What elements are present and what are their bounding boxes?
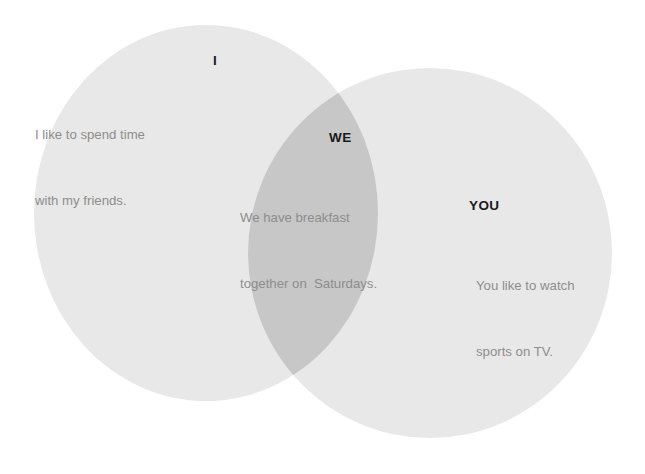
intersection-title-block: WE [329,131,352,145]
right-set-description-line-2: sports on TV. [476,341,574,363]
intersection-description: We have breakfast together on Saturdays. [240,163,377,339]
right-set-title: YOU [469,199,499,213]
venn-diagram: I I like to spend time with my friends. … [0,0,645,474]
intersection-title: WE [329,131,352,145]
intersection-description-block: We have breakfast together on Saturdays. [240,163,377,339]
intersection-description-line-2: together on Saturdays. [240,273,377,295]
left-set-description-block: I like to spend time with my friends. [35,80,145,256]
left-set-description: I like to spend time with my friends. [35,80,145,256]
right-set-title-block: YOU [469,199,499,213]
right-set-description-line-1: You like to watch [476,275,574,297]
left-set-title: I [213,54,217,68]
right-set-description: You like to watch sports on TV. [476,231,574,407]
left-set-description-line-1: I like to spend time [35,124,145,146]
venn-text-layer: I I like to spend time with my friends. … [0,0,645,474]
left-set-description-line-2: with my friends. [35,190,145,212]
left-set-title-block: I [213,54,217,68]
intersection-description-line-1: We have breakfast [240,207,377,229]
right-set-description-block: You like to watch sports on TV. [476,231,574,407]
